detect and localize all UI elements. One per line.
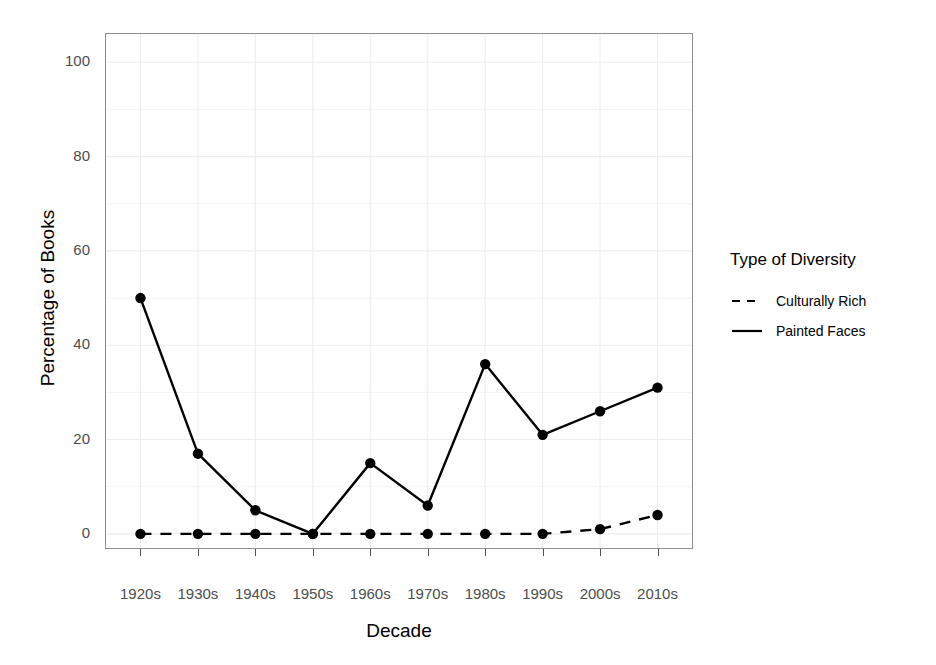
data-point xyxy=(595,524,605,534)
y-axis-ticks: 020406080100 xyxy=(28,0,90,665)
legend-label: Culturally Rich xyxy=(776,293,866,309)
legend-item[interactable]: Culturally Rich xyxy=(730,286,930,316)
y-tick-label: 20 xyxy=(30,431,90,446)
data-point xyxy=(135,529,145,539)
y-tick-label: 80 xyxy=(30,148,90,163)
data-point xyxy=(135,293,145,303)
data-point xyxy=(537,529,547,539)
x-tick-mark xyxy=(600,549,601,556)
data-point xyxy=(365,529,375,539)
legend-entries: Culturally RichPainted Faces xyxy=(730,286,930,346)
y-tick-label: 40 xyxy=(30,336,90,351)
x-tick-mark xyxy=(370,549,371,556)
data-point xyxy=(480,529,490,539)
data-point xyxy=(537,430,547,440)
series-painted-faces xyxy=(135,293,662,539)
legend-item[interactable]: Painted Faces xyxy=(730,316,930,346)
series-line xyxy=(140,298,657,534)
x-tick-mark xyxy=(428,549,429,556)
data-point xyxy=(652,382,662,392)
data-point xyxy=(423,529,433,539)
x-tick-mark xyxy=(313,549,314,556)
x-tick-mark xyxy=(543,549,544,556)
legend-title: Type of Diversity xyxy=(730,250,930,270)
series-line xyxy=(140,515,657,534)
x-tick-mark xyxy=(255,549,256,556)
data-point xyxy=(480,359,490,369)
series-culturally-rich xyxy=(135,510,662,539)
y-tick-label: 0 xyxy=(30,525,90,540)
data-point xyxy=(250,505,260,515)
plot-area xyxy=(106,34,692,548)
line-chart: Percentage of Books 020406080100 1920s19… xyxy=(0,0,936,665)
x-tick-mark xyxy=(198,549,199,556)
data-point xyxy=(193,448,203,458)
data-point xyxy=(308,529,318,539)
plot-panel xyxy=(105,33,693,549)
data-point xyxy=(652,510,662,520)
data-point xyxy=(365,458,375,468)
legend: Type of Diversity Culturally RichPainted… xyxy=(730,250,930,346)
x-tick-mark xyxy=(485,549,486,556)
data-point xyxy=(423,500,433,510)
data-point xyxy=(193,529,203,539)
legend-label: Painted Faces xyxy=(776,323,866,339)
data-point xyxy=(595,406,605,416)
y-tick-label: 100 xyxy=(30,53,90,68)
x-tick-label: 2010s xyxy=(623,585,693,602)
x-tick-mark xyxy=(658,549,659,556)
gridlines xyxy=(106,34,692,548)
x-tick-mark xyxy=(140,549,141,556)
x-axis-title: Decade xyxy=(105,620,693,642)
dashed-line-icon xyxy=(730,290,764,312)
solid-line-icon xyxy=(730,320,764,342)
data-point xyxy=(250,529,260,539)
y-tick-label: 60 xyxy=(30,242,90,257)
